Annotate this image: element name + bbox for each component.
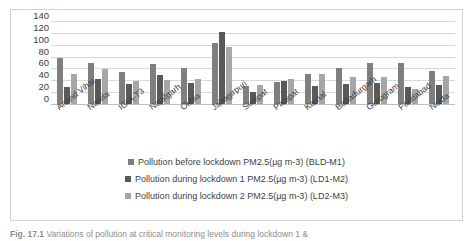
- y-axis-tick-label: 40: [38, 70, 49, 80]
- y-axis-tick-label: 20: [38, 82, 49, 92]
- legend-item-ld2-m3: Pollution during lockdown 2 PM2.5(µg m-3…: [125, 191, 348, 201]
- figure-container: 140120100806040200 Anand ViharNarelaIGIA…: [0, 0, 475, 241]
- legend-swatch-icon: [128, 159, 134, 165]
- y-axis-tick-label: 80: [38, 47, 49, 57]
- y-axis-tick-label: 140: [33, 11, 49, 21]
- bar-group: [300, 21, 331, 104]
- legend-item-ld1-m2: Pollution during lockdown 1 PM2.5(µg m-3…: [125, 174, 348, 184]
- chart-frame: 140120100806040200 Anand ViharNarelaIGIA…: [10, 9, 463, 221]
- figure-caption: Fig. 17.1 Variations of pollution at cri…: [10, 229, 465, 239]
- figure-caption-number: Fig. 17.1: [10, 229, 44, 239]
- y-axis: 140120100806040200: [25, 16, 49, 99]
- legend-swatch-icon: [125, 176, 131, 182]
- bar: [212, 43, 218, 104]
- y-axis-tick-label: 100: [33, 35, 49, 45]
- legend-item-label: Pollution before lockdown PM2.5(µg m-3) …: [138, 157, 345, 167]
- legend-item-label: Pollution during lockdown 2 PM2.5(µg m-3…: [135, 191, 348, 201]
- legend-item-bld-m1: Pollution before lockdown PM2.5(µg m-3) …: [128, 157, 345, 167]
- x-axis: Anand ViharNarelaIGIA-T3NajafgarhOkhlaJa…: [51, 105, 455, 151]
- bar-group: [175, 21, 206, 104]
- y-axis-tick-label: 120: [33, 23, 49, 33]
- legend-swatch-icon: [125, 193, 131, 199]
- legend-item-label: Pollution during lockdown 1 PM2.5(µg m-3…: [135, 174, 348, 184]
- chart-legend: Pollution before lockdown PM2.5(µg m-3) …: [11, 157, 462, 201]
- figure-caption-text: Variations of pollution at critical moni…: [46, 229, 308, 239]
- y-axis-tick-label: 0: [44, 94, 49, 104]
- y-axis-tick-label: 60: [38, 58, 49, 68]
